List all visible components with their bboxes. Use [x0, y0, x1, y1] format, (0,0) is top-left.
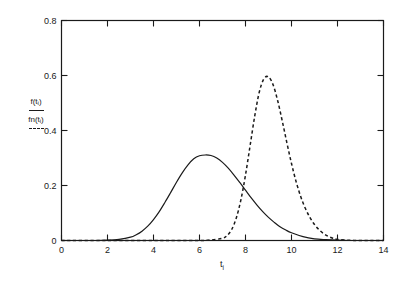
x-tick-label: 14 [378, 245, 388, 255]
x-tick-label: 4 [151, 245, 156, 255]
x-axis-tick-labels: 02468101214 [59, 245, 389, 255]
y-tick-label: 0.6 [44, 71, 57, 81]
solid-line-swatch [29, 110, 44, 111]
y-tick-label: 0.8 [44, 16, 57, 26]
x-axis-title-sub: i [223, 264, 224, 271]
x-tick-label: 0 [59, 245, 64, 255]
legend-label-fn-base: fn(t [28, 115, 40, 124]
legend-label-fn-tail: ) [41, 115, 44, 124]
x-tick-label: 12 [332, 245, 342, 255]
legend-swatch-dashed [14, 125, 58, 132]
x-tick-label: 8 [243, 245, 248, 255]
dashed-line-swatch [29, 128, 44, 129]
legend-label-f-tail: ) [39, 97, 42, 106]
legend-entry-f: f(ti) [14, 98, 58, 106]
plot-frame [62, 21, 384, 241]
legend-label-f-base: f(t [30, 97, 37, 106]
y-axis-legend-label: f(ti) fn(ti) [14, 98, 58, 134]
x-tick-label: 2 [105, 245, 110, 255]
y-tick-label: 0 [51, 236, 56, 246]
x-tick-label: 6 [197, 245, 202, 255]
chart-figure: 02468101214 00.20.40.60.8 ti [0, 0, 403, 282]
legend-swatch-solid [14, 107, 58, 114]
x-tick-label: 10 [286, 245, 296, 255]
legend-entry-fn: fn(ti) [14, 116, 58, 124]
x-axis-title: ti [220, 259, 224, 271]
y-tick-label: 0.2 [44, 181, 57, 191]
